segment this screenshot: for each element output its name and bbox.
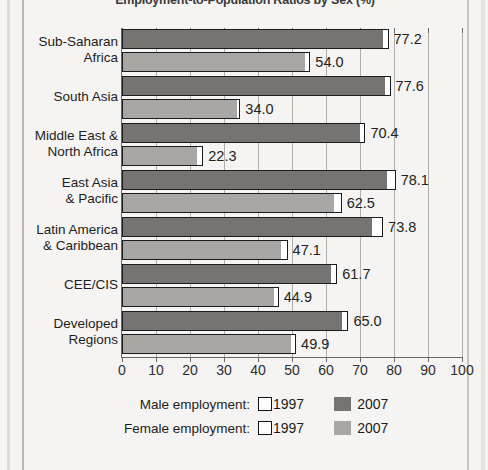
legend-swatch-2007-icon — [334, 421, 351, 435]
x-axis-label-20: 20 — [173, 362, 207, 378]
bar-female-2007-fill[interactable] — [123, 53, 305, 71]
page-edge-outer-right — [481, 0, 485, 470]
bar-female-1997-outline[interactable] — [122, 240, 288, 260]
bar-male-1997-outline[interactable] — [122, 217, 383, 237]
bar-row: 47.1 — [122, 240, 462, 260]
legend-label-2007: 2007 — [357, 396, 388, 412]
bar-male-2007-fill[interactable] — [123, 171, 387, 189]
category-label: Middle East &North Africa — [0, 128, 118, 160]
x-axis-label-0: 0 — [105, 362, 139, 378]
category-label-line2: & Caribbean — [0, 238, 118, 254]
bar-value-label: 77.6 — [396, 78, 424, 94]
bar-male-2007-fill[interactable] — [123, 312, 342, 330]
plot-area: 010203040506070809010077.254.077.634.070… — [122, 28, 462, 357]
bar-value-label: 61.7 — [342, 266, 370, 282]
bar-male-2007-fill[interactable] — [123, 30, 383, 48]
bar-row: 62.5 — [122, 193, 462, 213]
bar-female-2007-fill[interactable] — [123, 194, 334, 212]
x-axis-label-100: 100 — [445, 362, 479, 378]
legend-slot-2007: 2007 — [334, 396, 388, 412]
category-label: DevelopedRegions — [0, 316, 118, 348]
bar-female-2007-fill[interactable] — [123, 335, 291, 353]
category-label-line2: Africa — [0, 50, 118, 66]
bar-value-label: 22.3 — [208, 148, 236, 164]
bar-row: 70.4 — [122, 123, 462, 143]
legend-label-1997: 1997 — [273, 420, 304, 436]
bar-row: 54.0 — [122, 52, 462, 72]
category-label-line1: Middle East & — [0, 128, 118, 144]
x-axis-label-40: 40 — [241, 362, 275, 378]
category-label-line1: East Asia — [0, 175, 118, 191]
legend-label-1997: 1997 — [273, 396, 304, 412]
bar-row: 44.9 — [122, 287, 462, 307]
category-label-line1: CEE/CIS — [0, 277, 118, 293]
legend-slot-2007: 2007 — [334, 420, 388, 436]
bar-row: 73.8 — [122, 217, 462, 237]
chart-legend: Male employment:19972007Female employmen… — [122, 392, 452, 440]
bar-female-2007-fill[interactable] — [123, 241, 281, 259]
bar-male-1997-outline[interactable] — [122, 311, 348, 331]
bar-value-label: 78.1 — [401, 172, 429, 188]
category-label-line2: North Africa — [0, 144, 118, 160]
bar-value-label: 73.8 — [388, 219, 416, 235]
bar-female-2007-fill[interactable] — [123, 100, 237, 118]
bar-row: 34.0 — [122, 99, 462, 119]
bar-male-2007-fill[interactable] — [123, 265, 331, 283]
bar-female-2007-fill[interactable] — [123, 288, 274, 306]
bar-male-2007-fill[interactable] — [123, 218, 372, 236]
bar-value-label: 44.9 — [284, 289, 312, 305]
page-edge-right — [467, 0, 469, 470]
category-label: CEE/CIS — [0, 277, 118, 293]
bar-value-label: 65.0 — [353, 313, 381, 329]
bar-row: 22.3 — [122, 146, 462, 166]
bar-value-label: 54.0 — [315, 54, 343, 70]
bar-male-1997-outline[interactable] — [122, 123, 365, 143]
bar-female-1997-outline[interactable] — [122, 334, 296, 354]
bar-value-label: 49.9 — [301, 336, 329, 352]
bar-value-label: 77.2 — [394, 31, 422, 47]
x-axis-label-50: 50 — [275, 362, 309, 378]
category-label-line1: South Asia — [0, 89, 118, 105]
bar-female-1997-outline[interactable] — [122, 99, 240, 119]
category-axis-labels: Sub-SaharanAfricaSouth AsiaMiddle East &… — [0, 28, 118, 358]
bar-male-1997-outline[interactable] — [122, 76, 391, 96]
x-axis-label-10: 10 — [139, 362, 173, 378]
bar-female-1997-outline[interactable] — [122, 193, 342, 213]
x-axis-label-80: 80 — [377, 362, 411, 378]
legend-swatch-2007-icon — [334, 397, 351, 411]
category-label: East Asia& Pacific — [0, 175, 118, 207]
bar-male-1997-outline[interactable] — [122, 29, 389, 49]
category-label: Sub-SaharanAfrica — [0, 34, 118, 66]
category-label: Latin America& Caribbean — [0, 222, 118, 254]
bar-row: 77.6 — [122, 76, 462, 96]
bar-row: 77.2 — [122, 29, 462, 49]
bar-male-2007-fill[interactable] — [123, 124, 360, 142]
bar-row: 78.1 — [122, 170, 462, 190]
x-tick-top-100 — [462, 28, 463, 33]
bar-female-1997-outline[interactable] — [122, 146, 203, 166]
bar-row: 65.0 — [122, 311, 462, 331]
bar-male-2007-fill[interactable] — [123, 77, 385, 95]
x-axis-label-60: 60 — [309, 362, 343, 378]
category-label-line2: & Pacific — [0, 191, 118, 207]
legend-row-title: Female employment: — [122, 421, 258, 436]
category-label-line1: Latin America — [0, 222, 118, 238]
bar-female-1997-outline[interactable] — [122, 52, 310, 72]
bar-value-label: 47.1 — [293, 242, 321, 258]
bar-male-1997-outline[interactable] — [122, 264, 337, 284]
gridline-100 — [462, 28, 463, 357]
legend-row: Female employment:19972007 — [122, 416, 452, 440]
bar-female-1997-outline[interactable] — [122, 287, 279, 307]
category-label: South Asia — [0, 89, 118, 105]
chart-page: Employment-to-Population Ratios by Sex (… — [0, 0, 488, 470]
bar-value-label: 70.4 — [370, 125, 398, 141]
bar-male-1997-outline[interactable] — [122, 170, 396, 190]
legend-row-title: Male employment: — [122, 397, 258, 412]
x-axis-label-30: 30 — [207, 362, 241, 378]
legend-swatch-1997-icon — [258, 421, 272, 435]
category-label-line2: Regions — [0, 332, 118, 348]
bar-value-label: 62.5 — [347, 195, 375, 211]
bar-row: 49.9 — [122, 334, 462, 354]
x-axis-label-70: 70 — [343, 362, 377, 378]
bar-female-2007-fill[interactable] — [123, 147, 197, 165]
